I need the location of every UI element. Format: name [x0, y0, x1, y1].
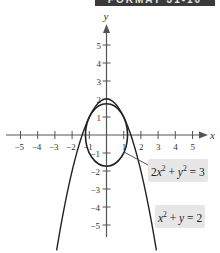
- x-tick-label: −3: [49, 142, 59, 152]
- axes: xy−5−4−3−2−112345−5−4−3−2−112345: [6, 10, 215, 237]
- x-tick-label: −5: [15, 142, 25, 152]
- x-tick-label: 5: [191, 142, 196, 152]
- x-tick-label: 2: [139, 142, 144, 152]
- x-axis-label: x: [209, 129, 215, 141]
- y-tick-label: 1: [97, 113, 102, 123]
- x-tick-label: 3: [156, 142, 161, 152]
- y-tick-label: 4: [97, 59, 102, 69]
- y-tick-label: −2: [91, 167, 101, 177]
- x-tick-label: −4: [32, 142, 42, 152]
- y-tick-label: −4: [91, 203, 101, 213]
- x-tick-label: 4: [173, 142, 178, 152]
- y-axis-label: y: [103, 10, 109, 22]
- ellipse-equation-label: 2x2 + y2 = 3: [148, 159, 208, 182]
- parabola-equation-label: x2 + y = 2: [155, 205, 205, 228]
- y-tick-label: −3: [91, 185, 101, 195]
- y-tick-label: −5: [91, 221, 101, 231]
- x-axis-arrow-icon: [199, 132, 208, 139]
- x-tick-label: −2: [66, 142, 76, 152]
- y-axis-arrow-icon: [103, 24, 110, 33]
- y-tick-label: 3: [97, 77, 102, 87]
- y-tick-label: 5: [97, 41, 102, 51]
